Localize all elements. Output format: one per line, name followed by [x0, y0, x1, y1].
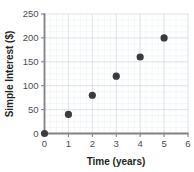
x-tick-label: 1: [66, 138, 71, 149]
y-tick-label: 150: [23, 56, 39, 67]
y-tick-label: 200: [23, 32, 39, 43]
y-tick-label: 50: [28, 104, 39, 115]
data-point: [65, 111, 72, 118]
y-tick-label: 250: [23, 8, 39, 19]
data-point: [160, 34, 167, 41]
x-axis-title: Time (years): [87, 156, 146, 167]
y-axis-title: Simple Interest ($): [4, 31, 15, 118]
x-tick-label: 6: [185, 138, 190, 149]
x-tick-label: 0: [42, 138, 47, 149]
x-tick-label: 5: [161, 138, 166, 149]
x-tick-label: 4: [138, 138, 143, 149]
data-point: [113, 73, 120, 80]
data-point: [89, 92, 96, 99]
data-point: [41, 130, 48, 137]
y-tick-label: 100: [23, 80, 39, 91]
chart-canvas: 0123456 050100150200250 Time (years) Sim…: [0, 0, 194, 172]
scatter-chart: 0123456 050100150200250 Time (years) Sim…: [0, 0, 194, 172]
x-tick-label: 3: [114, 138, 119, 149]
y-tick-label: 0: [33, 128, 38, 139]
x-tick-label: 2: [90, 138, 95, 149]
data-point: [137, 53, 144, 60]
